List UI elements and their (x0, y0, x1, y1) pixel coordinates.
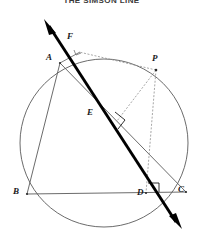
simson-line-figure: THE SIMSON LINE A B C D E F P (0, 0, 203, 244)
segment-bc (27, 192, 186, 194)
segment-ab (27, 63, 60, 194)
dashed-segment-pe (117, 70, 156, 121)
point-label-p: P (152, 54, 158, 63)
right-angle-marker-f (74, 50, 81, 55)
point-label-f: F (67, 32, 73, 41)
dashed-segment-pd (146, 70, 156, 193)
segment-ac (60, 63, 186, 192)
point-label-c: C (178, 185, 184, 194)
point-a-dot (59, 62, 61, 64)
simson-line-arrowhead-top (44, 19, 56, 35)
point-label-e: E (87, 108, 93, 117)
point-c-dot (185, 191, 187, 193)
geometry-canvas (0, 0, 203, 244)
point-p-dot (155, 69, 158, 72)
point-label-d: D (137, 188, 144, 197)
point-b-dot (26, 193, 28, 195)
point-d-dot (145, 192, 147, 194)
simson-line-arrowhead-bottom (169, 213, 182, 229)
point-label-a: A (46, 53, 52, 62)
dashed-segment-pf (79, 52, 156, 70)
point-label-b: B (13, 187, 19, 196)
